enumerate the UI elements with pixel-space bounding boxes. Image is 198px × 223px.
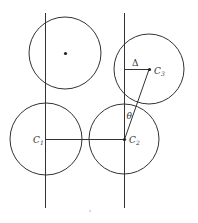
top-left-center-dot <box>64 52 67 55</box>
c3-label: C3 <box>154 66 165 77</box>
c2-center-dot <box>123 138 126 141</box>
diagram-canvas: Δ θ C3 C2 C1 <box>0 0 198 223</box>
theta-label: θ <box>127 111 133 121</box>
stray-dot <box>89 210 91 212</box>
c3-center-dot <box>148 68 151 71</box>
c2-label: C2 <box>129 135 140 146</box>
delta-label: Δ <box>132 58 139 68</box>
c1-label: C1 <box>33 135 44 146</box>
